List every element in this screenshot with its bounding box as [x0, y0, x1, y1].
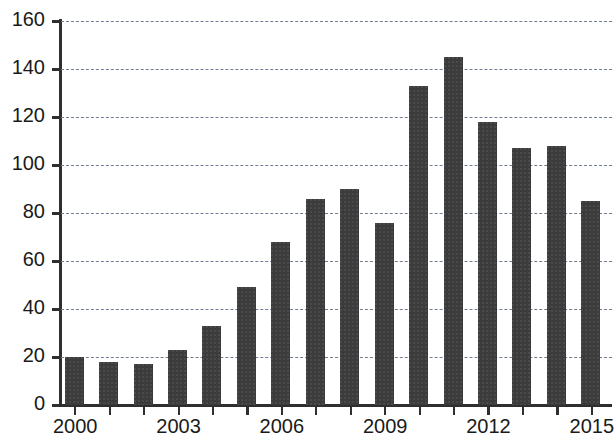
y-tick-label: 120	[12, 104, 45, 127]
x-tick-mark	[591, 405, 593, 415]
x-tick-label: 2012	[466, 415, 511, 438]
x-tick-mark	[143, 405, 145, 415]
y-tick-mark	[52, 68, 61, 71]
y-tick-mark	[52, 404, 61, 407]
y-tick-mark	[52, 260, 61, 263]
y-tick-label: 100	[12, 152, 45, 175]
y-tick-mark	[52, 212, 61, 215]
x-tick-mark	[419, 405, 421, 415]
y-tick-label: 140	[12, 56, 45, 79]
bar	[581, 201, 600, 405]
y-tick-mark	[52, 308, 61, 311]
plot-area	[61, 21, 612, 405]
x-tick-label: 2015	[570, 415, 615, 438]
x-tick-mark	[246, 405, 248, 415]
x-tick-mark	[453, 405, 455, 415]
x-tick-mark	[556, 405, 558, 415]
x-tick-label: 2009	[363, 415, 408, 438]
bar	[478, 122, 497, 405]
x-tick-mark	[350, 405, 352, 415]
y-tick-label: 80	[23, 200, 45, 223]
x-tick-mark	[281, 405, 283, 415]
bar	[65, 357, 84, 405]
bar	[340, 189, 359, 405]
bar	[202, 326, 221, 405]
x-tick-label: 2003	[156, 415, 201, 438]
y-tick-mark	[52, 164, 61, 167]
x-tick-mark	[522, 405, 524, 415]
bar	[134, 364, 153, 405]
x-tick-mark	[384, 405, 386, 415]
x-tick-mark	[109, 405, 111, 415]
x-tick-mark	[315, 405, 317, 415]
y-tick-label: 0	[34, 392, 45, 415]
bar	[444, 57, 463, 405]
y-tick-label: 160	[12, 8, 45, 31]
bar	[512, 148, 531, 405]
y-tick-mark	[52, 356, 61, 359]
y-tick-label: 40	[23, 296, 45, 319]
y-tick-mark	[52, 116, 61, 119]
bar-chart: 020406080100120140160 200020032006200920…	[0, 0, 616, 440]
bar	[375, 223, 394, 405]
y-tick-mark	[52, 20, 61, 23]
x-tick-label: 2000	[53, 415, 98, 438]
bar	[99, 362, 118, 405]
x-tick-label: 2006	[260, 415, 305, 438]
bar	[237, 287, 256, 405]
x-tick-mark	[487, 405, 489, 415]
y-tick-label: 60	[23, 248, 45, 271]
x-tick-mark	[178, 405, 180, 415]
y-tick-label: 20	[23, 344, 45, 367]
bar	[271, 242, 290, 405]
bar	[168, 350, 187, 405]
x-tick-mark	[212, 405, 214, 415]
bar	[409, 86, 428, 405]
bar	[306, 199, 325, 405]
x-tick-mark	[74, 405, 76, 415]
bar	[547, 146, 566, 405]
